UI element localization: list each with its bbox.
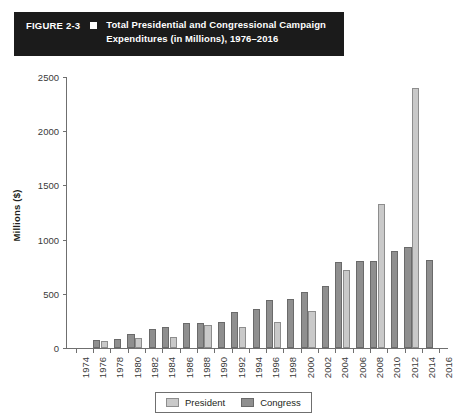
- bar-congress-1986: [183, 323, 190, 348]
- bar-congress-1990: [218, 322, 225, 348]
- y-axis-tick-mark: [63, 240, 67, 241]
- x-axis-tick-label: 1982: [149, 357, 160, 378]
- x-axis-tick-label: 2014: [426, 357, 437, 378]
- x-axis-tick-mark: [232, 348, 233, 353]
- legend-label-president: President: [185, 397, 225, 408]
- bar-congress-1992: [231, 312, 238, 348]
- bar-congress-2006: [356, 261, 363, 348]
- square-bullet-icon: [90, 22, 97, 29]
- x-axis-tick-label: 2012: [409, 357, 420, 378]
- x-axis-tick-mark: [197, 348, 198, 353]
- bar-congress-1984: [162, 327, 169, 348]
- legend-item-president: President: [166, 397, 225, 408]
- bar-president-1976: [101, 341, 108, 348]
- y-axis-tick-mark: [63, 294, 67, 295]
- y-axis-tick-mark: [63, 185, 67, 186]
- x-axis-tick-label: 1986: [184, 357, 195, 378]
- x-axis-tick-label: 2000: [305, 357, 316, 378]
- x-axis-tick-label: 2008: [374, 357, 385, 378]
- y-axis-tick-mark: [63, 77, 67, 78]
- chart-legend: President Congress: [155, 392, 312, 413]
- bar-congress-2002: [322, 286, 329, 348]
- x-axis-tick-mark: [110, 348, 111, 353]
- legend-item-congress: Congress: [241, 397, 301, 408]
- x-axis-tick-label: 1980: [132, 357, 143, 378]
- bar-president-1984: [170, 337, 177, 348]
- x-axis-tick-label: 1974: [80, 357, 91, 378]
- figure-title-line-2: Expenditures (in Millions), 1976–2016: [106, 32, 326, 46]
- x-axis-tick-mark: [422, 348, 423, 353]
- bar-congress-1996: [266, 300, 273, 348]
- x-axis-tick-label: 1994: [253, 357, 264, 378]
- x-axis-tick-label: 1990: [218, 357, 229, 378]
- y-axis-tick-label: 500: [11, 288, 67, 299]
- bar-congress-1988: [197, 323, 204, 348]
- x-axis-tick-mark: [301, 348, 302, 353]
- bar-president-2004: [343, 270, 350, 348]
- y-axis-title: Millions ($): [11, 156, 22, 276]
- x-axis-tick-label: 2010: [391, 357, 402, 378]
- bar-president-1988: [204, 325, 211, 348]
- x-axis-tick-mark: [370, 348, 371, 353]
- bar-president-1980: [135, 338, 142, 348]
- bar-congress-2014: [426, 260, 433, 348]
- legend-swatch-congress-icon: [241, 398, 254, 407]
- bar-congress-2000: [301, 292, 308, 348]
- x-axis-tick-label: 1978: [114, 357, 125, 378]
- x-axis-tick-label: 1976: [97, 357, 108, 378]
- figure-title-text: Total Presidential and Congressional Cam…: [106, 18, 326, 46]
- plot-area: 0500100015002000250019741976197819801982…: [66, 77, 448, 349]
- bar-congress-1980: [127, 334, 134, 348]
- x-axis-tick-mark: [405, 348, 406, 353]
- x-axis-tick-label: 1996: [270, 357, 281, 378]
- x-axis-tick-mark: [214, 348, 215, 353]
- x-axis-tick-mark: [162, 348, 163, 353]
- x-axis-tick-mark: [353, 348, 354, 353]
- x-axis-tick-mark: [387, 348, 388, 353]
- x-axis-tick-label: 2016: [443, 357, 454, 378]
- x-axis-tick-label: 2006: [357, 357, 368, 378]
- x-axis-tick-mark: [283, 348, 284, 353]
- bar-congress-2012: [404, 247, 411, 348]
- figure-number-label: FIGURE 2-3: [26, 18, 80, 32]
- x-axis-tick-label: 1988: [201, 357, 212, 378]
- y-axis-tick-mark: [63, 131, 67, 132]
- y-axis-tick-label: 2000: [11, 126, 67, 137]
- y-axis-tick-mark: [63, 348, 67, 349]
- x-axis-tick-mark: [439, 348, 440, 353]
- figure-title-line-1: Total Presidential and Congressional Cam…: [106, 19, 326, 30]
- legend-swatch-president-icon: [166, 398, 179, 407]
- bar-president-2000: [308, 311, 315, 348]
- bar-congress-1998: [287, 299, 294, 348]
- bar-congress-1982: [149, 329, 156, 348]
- y-axis-tick-label: 0: [11, 343, 67, 354]
- x-axis-tick-mark: [128, 348, 129, 353]
- x-axis-tick-mark: [180, 348, 181, 353]
- x-axis-tick-mark: [318, 348, 319, 353]
- y-axis-tick-label: 1000: [11, 234, 67, 245]
- x-axis-tick-mark: [266, 348, 267, 353]
- x-axis-tick-label: 2004: [339, 357, 350, 378]
- bar-congress-2008: [370, 261, 377, 348]
- figure-title-banner: FIGURE 2-3 Total Presidential and Congre…: [14, 12, 344, 56]
- x-axis-tick-label: 1984: [166, 357, 177, 378]
- x-axis-tick-mark: [249, 348, 250, 353]
- x-axis-tick-mark: [145, 348, 146, 353]
- bar-president-1996: [274, 322, 281, 348]
- y-axis-tick-label: 2500: [11, 72, 67, 83]
- bar-congress-1978: [114, 339, 121, 348]
- bar-congress-1976: [93, 340, 100, 348]
- x-axis-tick-label: 2002: [322, 357, 333, 378]
- x-axis-tick-mark: [335, 348, 336, 353]
- bar-president-2008: [378, 204, 385, 348]
- bar-president-1992: [239, 327, 246, 348]
- bar-congress-2010: [391, 251, 398, 348]
- bar-congress-2004: [335, 262, 342, 348]
- chart-container: Millions ($) 050010001500200025001974197…: [0, 60, 457, 420]
- x-axis-tick-mark: [93, 348, 94, 353]
- x-axis-tick-label: 1998: [287, 357, 298, 378]
- x-axis-tick-mark: [76, 348, 77, 353]
- y-axis-tick-label: 1500: [11, 180, 67, 191]
- bar-congress-1994: [253, 309, 260, 348]
- x-axis-tick-label: 1992: [236, 357, 247, 378]
